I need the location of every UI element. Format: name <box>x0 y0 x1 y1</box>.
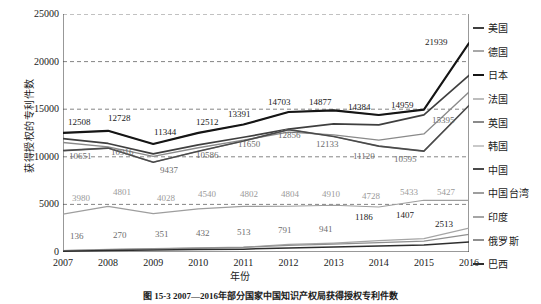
data-label: 15395 <box>432 116 455 125</box>
legend-label: 韩国 <box>488 138 509 153</box>
data-label: 21939 <box>425 38 448 47</box>
x-tick-label: 2007 <box>41 258 85 268</box>
chart-figure: 获得授权的专利件数 年份 0500010000150002000025000 2… <box>0 0 541 304</box>
data-label: 791 <box>278 226 292 235</box>
data-label: 4540 <box>198 190 216 199</box>
data-label: 5433 <box>400 188 418 197</box>
legend-label: 德国 <box>488 44 509 59</box>
legend-item-1[interactable]: 德国 <box>473 40 541 64</box>
legend-item-6[interactable]: 中国 <box>473 158 541 182</box>
x-tick-label: 2014 <box>357 258 401 268</box>
legend-line-icon <box>473 50 484 52</box>
data-label: 4028 <box>157 194 175 203</box>
data-label: 4728 <box>362 192 380 201</box>
data-label: 4801 <box>113 188 131 197</box>
x-axis-title: 年份 <box>0 268 480 283</box>
legend-line-icon <box>473 145 484 147</box>
y-tick-label: 15000 <box>3 104 59 114</box>
legend-line-icon <box>473 168 484 170</box>
legend-label: 中国 <box>488 162 509 177</box>
data-label: 941 <box>319 225 333 234</box>
data-label: 14384 <box>348 103 371 112</box>
legend-item-0[interactable]: 美国 <box>473 16 541 40</box>
data-label: 11120 <box>353 152 375 161</box>
data-label: 14703 <box>268 98 291 107</box>
y-tick-label: 10000 <box>3 152 59 162</box>
legend-line-icon <box>473 192 484 194</box>
legend: 美国德国日本法国英国韩国中国中国台湾印度俄罗斯巴西 <box>473 16 541 276</box>
data-label: 4802 <box>240 190 258 199</box>
legend-item-10[interactable]: 巴西 <box>473 252 541 276</box>
legend-item-3[interactable]: 法国 <box>473 87 541 111</box>
data-label: 136 <box>70 232 84 241</box>
data-label: 11344 <box>154 128 176 137</box>
figure-caption: 图 15-3 2007—2016年部分国家中国知识产权局获得授权专利件数 <box>0 289 541 304</box>
legend-label: 法国 <box>488 91 509 106</box>
legend-line-icon <box>473 216 484 218</box>
data-label: 14959 <box>391 101 414 110</box>
x-tick-label: 2012 <box>267 258 311 268</box>
data-label: 10586 <box>196 151 219 160</box>
legend-label: 印度 <box>488 209 509 224</box>
data-label: 10916 <box>111 148 134 157</box>
data-label: 3980 <box>72 194 90 203</box>
legend-line-icon <box>473 27 484 29</box>
legend-label: 中国台湾 <box>488 185 529 200</box>
series-line-2 <box>63 43 469 144</box>
legend-item-7[interactable]: 中国台湾 <box>473 181 541 205</box>
x-tick-label: 2009 <box>131 258 175 268</box>
legend-label: 日本 <box>488 67 509 82</box>
legend-item-4[interactable]: 英国 <box>473 110 541 134</box>
data-label: 12728 <box>108 114 131 123</box>
legend-line-icon <box>473 121 484 123</box>
data-label: 12508 <box>68 118 91 127</box>
x-tick-label: 2011 <box>221 258 265 268</box>
legend-line-icon <box>473 263 484 265</box>
data-label: 2513 <box>435 220 453 229</box>
data-label: 4910 <box>322 190 340 199</box>
y-tick-label: 20000 <box>3 57 59 67</box>
y-tick-label: 0 <box>3 247 59 257</box>
y-tick-label: 25000 <box>3 9 59 19</box>
legend-item-5[interactable]: 韩国 <box>473 134 541 158</box>
data-label: 12512 <box>196 118 219 127</box>
series-line-1 <box>63 43 469 144</box>
data-label: 1407 <box>396 211 414 220</box>
data-label: 11650 <box>238 140 260 149</box>
legend-line-icon <box>473 74 484 76</box>
data-label: 10651 <box>69 152 92 161</box>
x-tick-label: 2010 <box>176 258 220 268</box>
legend-item-9[interactable]: 俄罗斯 <box>473 228 541 252</box>
data-label: 5427 <box>437 188 455 197</box>
x-tick-label: 2015 <box>402 258 446 268</box>
data-label: 351 <box>155 230 169 239</box>
legend-line-icon <box>473 239 484 241</box>
legend-line-icon <box>473 98 484 100</box>
data-label: 13391 <box>228 110 251 119</box>
y-axis-title: 获得授权的专利件数 <box>21 51 36 201</box>
data-label: 14877 <box>309 98 332 107</box>
legend-label: 英国 <box>488 115 509 130</box>
data-label: 270 <box>113 231 127 240</box>
y-tick-label: 5000 <box>3 199 59 209</box>
data-label: 9437 <box>160 166 178 175</box>
data-label: 1186 <box>355 213 373 222</box>
legend-label: 美国 <box>488 20 509 35</box>
legend-item-8[interactable]: 印度 <box>473 205 541 229</box>
data-label: 432 <box>196 229 210 238</box>
data-label: 4804 <box>281 190 299 199</box>
data-label: 10595 <box>394 155 417 164</box>
legend-item-2[interactable]: 日本 <box>473 63 541 87</box>
data-label: 12133 <box>316 140 339 149</box>
data-label: 513 <box>237 228 251 237</box>
legend-label: 巴西 <box>488 256 509 271</box>
data-label: 12856 <box>278 131 301 140</box>
x-tick-label: 2008 <box>86 258 130 268</box>
legend-label: 俄罗斯 <box>488 233 519 248</box>
x-tick-label: 2013 <box>312 258 356 268</box>
